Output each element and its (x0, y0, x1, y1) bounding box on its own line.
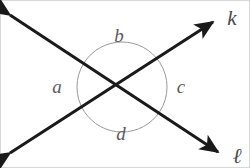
angle-arc-c (160, 62, 167, 111)
line-label-k: k (227, 8, 236, 29)
angle-label-a: a (52, 77, 62, 96)
angle-label-c: c (177, 77, 185, 96)
angle-label-b: b (114, 26, 124, 45)
angle-label-d: d (116, 124, 126, 143)
line-label-l: ℓ (233, 146, 242, 167)
geometry-figure: a b c d k ℓ (0, 0, 250, 168)
